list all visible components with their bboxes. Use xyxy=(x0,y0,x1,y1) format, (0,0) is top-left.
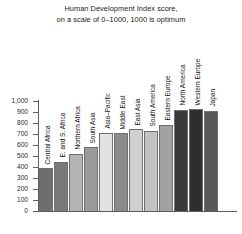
x-axis-line xyxy=(38,211,237,212)
bar-category-label: Western Europe xyxy=(195,58,202,105)
bar-item[interactable]: North America xyxy=(174,101,188,211)
y-axis-tick-label: 400 xyxy=(4,164,28,171)
bar[interactable] xyxy=(54,162,68,212)
bar-item[interactable]: Eastern Europe xyxy=(159,101,173,211)
bar-category-label: Middle East xyxy=(120,95,127,129)
y-axis-tick-label: 800 xyxy=(4,120,28,127)
y-axis-tick xyxy=(33,123,38,124)
bar[interactable] xyxy=(144,131,158,211)
bar-category-label: Central Africa xyxy=(45,125,52,164)
bar-category-label: E. and S. Africa xyxy=(60,113,66,158)
chart-container: Human Development Index score, on a scal… xyxy=(0,0,242,234)
bar[interactable] xyxy=(129,129,143,211)
bar-item[interactable]: Japan xyxy=(204,101,218,211)
bar[interactable] xyxy=(84,147,98,211)
y-axis-tick xyxy=(33,178,38,179)
chart-title: Human Development Index score, on a scal… xyxy=(0,4,242,25)
y-axis-tick-label: 1,000 xyxy=(4,98,28,105)
bar-category-label: North America xyxy=(180,65,187,106)
bar[interactable] xyxy=(114,133,128,211)
y-axis-tick xyxy=(33,112,38,113)
y-axis-tick-label: 300 xyxy=(4,175,28,182)
bar-category-label: Japan xyxy=(210,89,217,107)
y-axis-tick-label: 0 xyxy=(4,208,28,215)
bar-category-label: East Asia xyxy=(135,98,142,125)
bar[interactable] xyxy=(99,133,113,211)
y-axis-tick xyxy=(33,145,38,146)
bar-item[interactable]: Western Europe xyxy=(189,101,203,211)
bar-item[interactable]: Asia–Pacific xyxy=(99,101,113,211)
y-axis-tick-label: 900 xyxy=(4,109,28,116)
bar[interactable] xyxy=(39,168,53,211)
y-axis-tick xyxy=(33,200,38,201)
bar-category-label: South America xyxy=(150,84,157,126)
bar-item[interactable]: South America xyxy=(144,101,158,211)
y-axis-tick-label: 100 xyxy=(4,197,28,204)
y-axis-tick xyxy=(33,134,38,135)
y-axis-tick-label: 600 xyxy=(4,142,28,149)
bar-category-label: Eastern Europe xyxy=(165,75,172,120)
y-axis-tick xyxy=(33,156,38,157)
bar[interactable] xyxy=(204,111,218,211)
bar-item[interactable]: South Asia xyxy=(84,101,98,211)
bar-item[interactable]: Central Africa xyxy=(39,101,53,211)
y-axis-tick xyxy=(33,211,38,212)
bar[interactable] xyxy=(69,154,83,211)
bar-category-label: South Asia xyxy=(90,112,97,143)
bar-item[interactable]: Middle East xyxy=(114,101,128,211)
bar-category-label: Asia–Pacific xyxy=(105,94,112,129)
bar-item[interactable]: Northern Africa xyxy=(69,101,83,211)
bar[interactable] xyxy=(159,125,173,211)
bar[interactable] xyxy=(189,109,203,211)
chart-title-line-2: on a scale of 0–1000, 1000 is optimum xyxy=(0,15,242,26)
y-axis-tick xyxy=(33,101,38,102)
bar-item[interactable]: East Asia xyxy=(129,101,143,211)
bar[interactable] xyxy=(174,110,188,211)
bar-category-label: Northern Africa xyxy=(75,106,82,149)
chart-title-line-1: Human Development Index score, xyxy=(0,4,242,15)
bar-series: Central AfricaE. and S. AfricaNorthern A… xyxy=(39,101,219,211)
y-axis-tick-label: 200 xyxy=(4,186,28,193)
bar-item[interactable]: E. and S. Africa xyxy=(54,101,68,211)
y-axis-tick-label: 700 xyxy=(4,131,28,138)
y-axis-tick-label: 500 xyxy=(4,153,28,160)
y-axis-tick xyxy=(33,189,38,190)
y-axis-tick xyxy=(33,167,38,168)
